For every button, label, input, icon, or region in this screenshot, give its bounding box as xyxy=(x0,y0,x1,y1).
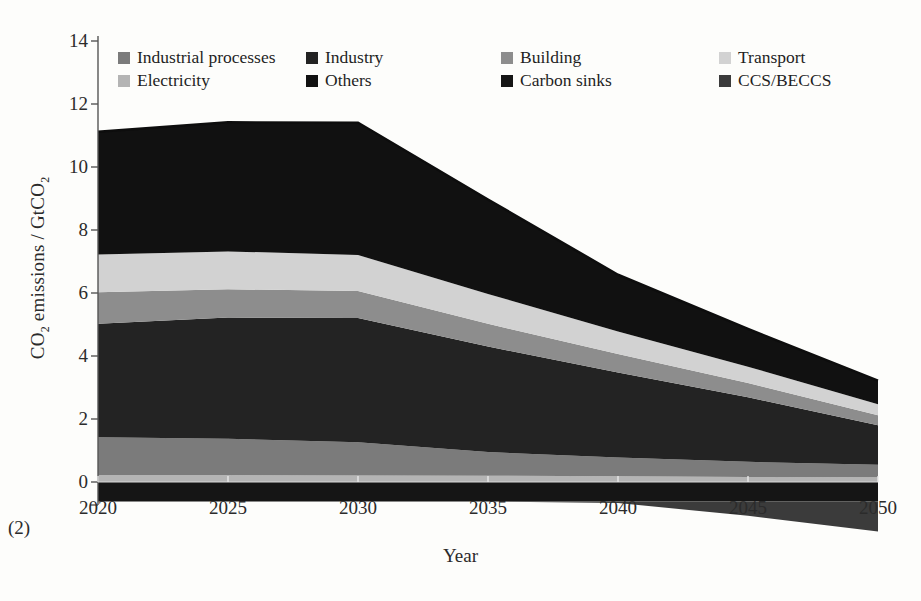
legend-swatch-industrial-processes-icon xyxy=(118,52,130,64)
legend-item-building[interactable]: Building xyxy=(501,49,719,67)
legend-swatch-electricity-icon xyxy=(118,75,130,87)
legend-item-electricity[interactable]: Electricity xyxy=(118,72,306,90)
x-tick-label-2040: 2040 xyxy=(599,497,637,519)
legend-item-label: Transport xyxy=(738,49,805,67)
legend-item-label: Others xyxy=(325,72,372,90)
x-axis-tick-labels: 2020202520302035204020452050 xyxy=(0,497,921,527)
legend-item-label: Industry xyxy=(325,49,383,67)
legend-item-industry[interactable]: Industry xyxy=(306,49,501,67)
legend-item-label: Carbon sinks xyxy=(520,72,612,90)
x-tick-label-2035: 2035 xyxy=(469,497,507,519)
legend-item-ccs-beccs[interactable]: CCS/BECCS xyxy=(719,72,888,90)
legend-item-label: Industrial processes xyxy=(137,49,276,67)
legend-item-carbon-sinks[interactable]: Carbon sinks xyxy=(501,72,719,90)
legend-swatch-transport-icon xyxy=(719,52,731,64)
x-tick-label-2020: 2020 xyxy=(79,497,117,519)
legend-swatch-industry-icon xyxy=(306,52,318,64)
legend-item-label: Electricity xyxy=(137,72,210,90)
x-tick-label-2045: 2045 xyxy=(729,497,767,519)
x-tick-label-2030: 2030 xyxy=(339,497,377,519)
x-tick-label-2050: 2050 xyxy=(859,497,897,519)
legend-swatch-building-icon xyxy=(501,52,513,64)
x-tick-label-2025: 2025 xyxy=(209,497,247,519)
legend-swatch-carbon-sinks-icon xyxy=(501,75,513,87)
legend-item-label: Building xyxy=(520,49,581,67)
legend-item-others[interactable]: Others xyxy=(306,72,501,90)
x-axis-title: Year xyxy=(0,545,921,567)
figure-corner-note: (2) xyxy=(8,517,30,539)
legend-item-transport[interactable]: Transport xyxy=(719,49,888,67)
chart-figure: CO2 emissions / GtCO2 14121086420 202020… xyxy=(0,0,921,601)
legend-swatch-ccs-beccs-icon xyxy=(719,75,731,87)
legend-item-industrial-processes[interactable]: Industrial processes xyxy=(118,49,306,67)
legend-swatch-others-icon xyxy=(306,75,318,87)
chart-legend: Industrial processesIndustryBuildingTran… xyxy=(118,46,888,92)
legend-item-label: CCS/BECCS xyxy=(738,72,831,90)
